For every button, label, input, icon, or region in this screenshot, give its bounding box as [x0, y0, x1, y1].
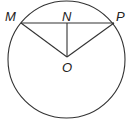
label-O: O [62, 60, 72, 75]
label-N: N [62, 9, 72, 24]
radius-MO [21, 23, 67, 57]
circle-diagram: M N P O [0, 0, 128, 125]
label-P: P [116, 9, 125, 24]
radius-PO [67, 23, 114, 57]
label-M: M [5, 9, 16, 24]
